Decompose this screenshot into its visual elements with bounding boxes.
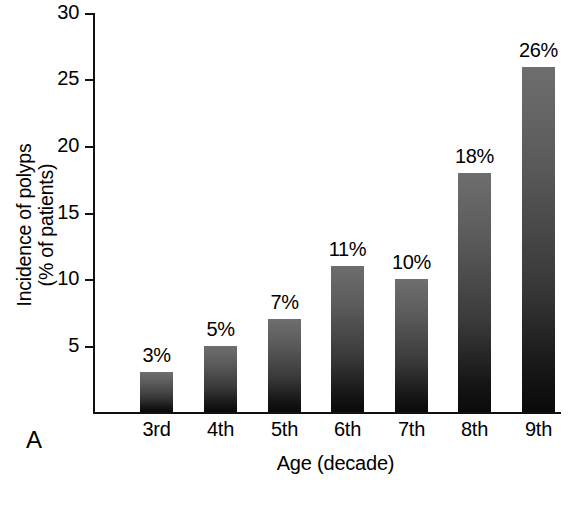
bar-value-4th: 5% (186, 318, 255, 341)
y-tick-30 (85, 13, 94, 15)
x-axis-label: Age (decade) (0, 452, 569, 475)
y-tick-20 (85, 146, 94, 148)
bar-9th (522, 67, 555, 412)
y-tick-label-20: 20 (45, 134, 79, 157)
x-tick-label-3rd: 3rd (122, 418, 191, 441)
x-tick-label-8th: 8th (440, 418, 509, 441)
bar-value-9th: 26% (504, 39, 569, 62)
bar-value-8th: 18% (440, 145, 509, 168)
y-tick-label-25: 25 (45, 67, 79, 90)
bar-value-5th: 7% (250, 291, 319, 314)
bar-value-3rd: 3% (122, 344, 191, 367)
y-tick-15 (85, 213, 94, 215)
y-axis-label-line-1: Incidence of polyps (14, 95, 36, 355)
y-tick-25 (85, 79, 94, 81)
x-tick-label-9th: 9th (504, 418, 569, 441)
chart-figure: Incidence of polyps (% of patients) 30 2… (0, 0, 569, 506)
x-tick-label-6th: 6th (313, 418, 382, 441)
y-tick-label-5: 5 (45, 334, 79, 357)
x-axis-line (93, 412, 561, 414)
bar-4th (204, 346, 237, 412)
panel-label: A (26, 426, 42, 454)
x-tick-label-7th: 7th (377, 418, 446, 441)
bar-value-6th: 11% (313, 238, 382, 261)
bar-3rd (140, 372, 173, 412)
y-tick-label-15: 15 (45, 201, 79, 224)
bar-6th (331, 266, 364, 412)
bar-8th (458, 173, 491, 412)
bar-value-7th: 10% (377, 251, 446, 274)
bar-7th (395, 279, 428, 412)
x-axis-label-text: Age (decade) (277, 452, 395, 474)
x-tick-label-4th: 4th (186, 418, 255, 441)
y-tick-label-30: 30 (45, 1, 79, 24)
y-tick-5 (85, 346, 94, 348)
bar-5th (268, 319, 301, 412)
x-tick-label-5th: 5th (250, 418, 319, 441)
y-tick-label-10: 10 (45, 267, 79, 290)
y-tick-10 (85, 279, 94, 281)
